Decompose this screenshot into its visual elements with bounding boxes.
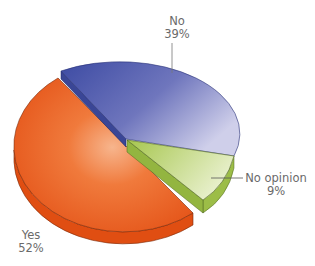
label-no-opinion: No opinion 9% bbox=[243, 172, 309, 198]
label-no-value: 39% bbox=[160, 28, 194, 41]
label-no-opinion-value: 9% bbox=[243, 185, 309, 198]
label-yes-value: 52% bbox=[14, 242, 48, 255]
pie-chart bbox=[0, 0, 315, 266]
label-no: No 39% bbox=[160, 15, 194, 41]
label-yes: Yes 52% bbox=[14, 229, 48, 255]
